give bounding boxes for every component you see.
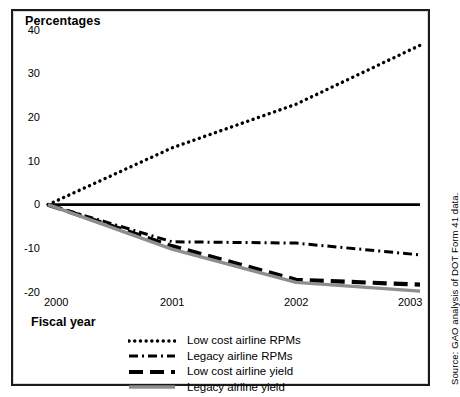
legend-swatch-dotted-icon [128,334,176,348]
plot-lines [44,30,426,292]
legend-item: Legacy airline yield [128,380,388,396]
y-axis: 403020100-10-20 [12,30,40,292]
y-tick-label: 20 [28,112,40,123]
y-tick-label: 10 [28,156,40,167]
x-tick-label: 2000 [44,296,68,308]
x-tick-label: 2003 [398,296,422,308]
x-axis-title: Fiscal year [31,315,96,329]
legend-label: Low cost airline yield [187,365,293,378]
series-line [48,205,420,285]
legend-swatch-dashed-icon [128,365,176,379]
legend-item: Low cost airline RPMs [128,333,388,349]
series-line [48,205,420,255]
legend-swatch-solid-icon [128,380,176,394]
y-tick-label: 30 [28,68,40,79]
legend-label: Legacy airline RPMs [187,350,292,363]
source-note-text: Source: GAO analysis of DOT Form 41 data… [449,193,460,385]
chart-legend: Low cost airline RPMsLegacy airline RPMs… [128,333,388,395]
source-note: Source: GAO analysis of DOT Form 41 data… [432,0,458,397]
series-line [48,45,420,204]
x-axis: 2000200120022003 [20,296,425,312]
legend-item: Low cost airline yield [128,364,388,380]
legend-item: Legacy airline RPMs [128,349,388,365]
y-tick-label: -10 [24,243,40,254]
series-line [48,205,420,291]
y-tick-label: 0 [34,199,40,210]
y-tick-label: 40 [28,25,40,36]
chart-figure: Percentages 403020100-10-20 200020012002… [0,0,460,397]
legend-label: Legacy airline yield [187,381,285,394]
x-tick-label: 2001 [160,296,184,308]
legend-label: Low cost airline RPMs [187,334,301,347]
legend-swatch-dash-dot-icon [128,349,176,363]
x-tick-label: 2002 [284,296,308,308]
plot-area [44,30,426,292]
